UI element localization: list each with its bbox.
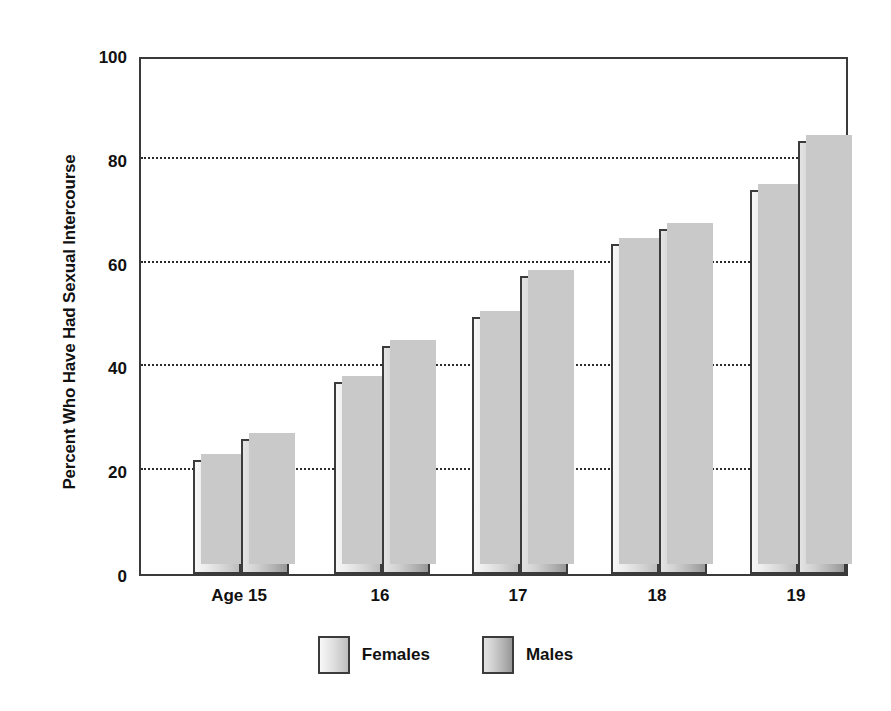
legend-item-females: Females [318,636,430,674]
bar-group [193,59,289,574]
bar-males-19 [798,141,846,574]
bar-females-19 [750,190,798,574]
bar-males-age-15 [241,439,289,574]
x-tick-label-age-15: Age 15 [179,586,299,606]
bar-group [750,59,846,574]
bars-layer [141,59,846,574]
legend-swatch-females [318,636,350,674]
bar-males-16 [382,346,430,574]
bar-group [472,59,568,574]
bar-group [611,59,707,574]
legend-label-females: Females [362,645,430,665]
x-tick-label-19: 19 [736,586,856,606]
y-tick-label-60: 60 [81,257,127,274]
bar-chart: Percent Who Have Had Sexual Intercourse … [0,0,891,711]
bar-males-17 [520,276,568,574]
bar-females-18 [611,244,659,574]
y-tick-label-40: 40 [81,360,127,377]
x-tick-label-18: 18 [597,586,717,606]
bar-females-age-15 [193,460,241,574]
x-tick-label-17: 17 [458,586,578,606]
x-tick-label-16: 16 [320,586,440,606]
plot-area [139,57,848,576]
bar-females-17 [472,317,520,574]
legend-label-males: Males [526,645,573,665]
y-axis-tick-labels: 020406080100 [75,57,127,576]
bar-females-16 [334,382,382,574]
y-tick-label-100: 100 [81,49,127,66]
chart-legend: FemalesMales [0,636,891,674]
y-tick-label-20: 20 [81,464,127,481]
x-axis-tick-labels: Age 1516171819 [139,586,848,620]
legend-swatch-males [482,636,514,674]
bar-group [334,59,430,574]
y-tick-label-80: 80 [81,153,127,170]
bar-males-18 [659,229,707,574]
legend-item-males: Males [482,636,573,674]
y-tick-label-0: 0 [81,568,127,585]
